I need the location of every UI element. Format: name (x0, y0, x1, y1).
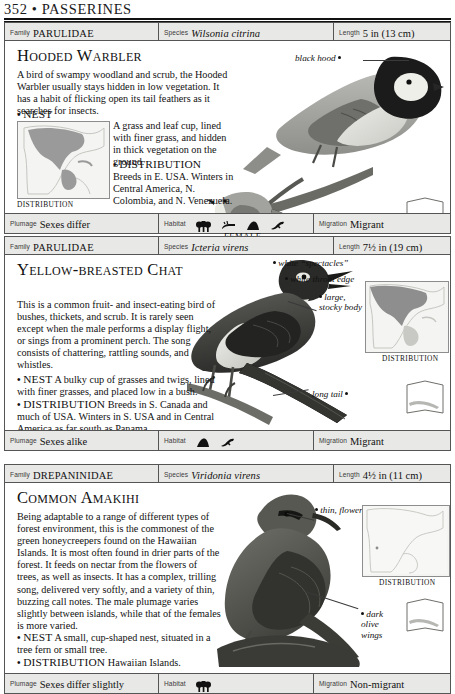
habitat-label: Habitat (164, 220, 186, 227)
species-value: Icteria virens (191, 242, 248, 253)
entry-footer-bar: PlumageSexes differ slightly Habitat Mig… (5, 673, 450, 693)
callout-dark-olive-wings: dark olive wings (361, 609, 401, 640)
length-label: Length (339, 243, 360, 250)
entry-header-bar: FamilyPARULIDAE SpeciesWilsonia citrina … (5, 23, 450, 41)
plumage-label: Plumage (10, 437, 37, 444)
book-icon (403, 595, 447, 635)
nest-label: NEST (23, 108, 52, 120)
trees-icon (196, 681, 211, 692)
page-header: 352 • PASSERINES (4, 0, 451, 20)
distribution-label: DISTRIBUTION (23, 656, 105, 668)
callout-large-stocky-body: large, stocky body (319, 292, 365, 313)
species-value: Viridonia virens (191, 470, 260, 481)
distribution-map (362, 505, 450, 577)
callout-white-throat-edge: white throat edge (285, 274, 354, 284)
callout-text: white “spectacles” (278, 258, 348, 268)
flying-bird-icon (271, 221, 285, 231)
length-value: 5 in (13 cm) (363, 28, 415, 39)
entry-footer-bar: PlumageSexes alike Habitat MigrationMigr… (5, 430, 450, 450)
callout-dot (285, 277, 288, 280)
nest-line: • NEST A bulky cup of grasses and twigs,… (17, 373, 231, 398)
species-cell: SpeciesViridonia virens (159, 465, 334, 482)
plumage-cell: PlumageSexes differ (5, 214, 159, 233)
migration-cell: MigrationMigrant (314, 431, 450, 450)
length-cell: Length5 in (13 cm) (334, 23, 450, 40)
species-title: Hooded Warbler (17, 47, 232, 64)
species-label: Species (164, 29, 188, 36)
migration-value: Migrant (350, 219, 384, 230)
distribution-caption: DISTRIBUTION (17, 200, 74, 209)
field-guide-page: 352 • PASSERINES FamilyPARULIDAE Species… (0, 0, 455, 694)
plumage-value: Sexes alike (40, 436, 88, 447)
map-graphic (18, 122, 107, 196)
species-entry-yellow-breasted-chat: FamilyPARULIDAE SpeciesIcteria virens Le… (4, 236, 451, 451)
entry-header-bar: FamilyDREPANINIDAE SpeciesViridonia vire… (5, 465, 450, 483)
callout-dot (361, 612, 364, 615)
entry-header-bar: FamilyPARULIDAE SpeciesIcteria virens Le… (5, 237, 450, 255)
nest-line: • NEST A small, cup-shaped nest, situate… (17, 631, 217, 656)
length-cell: Length4½ in (11 cm) (334, 465, 450, 482)
species-title: Yellow-breasted Chat (17, 261, 197, 279)
callout-white-spectacles: white “spectacles” (273, 258, 348, 268)
distribution-map (365, 281, 449, 353)
plumage-cell: PlumageSexes alike (5, 431, 159, 450)
callout-dot (319, 295, 322, 298)
habitat-label: Habitat (164, 437, 186, 444)
nest-label: NEST (23, 631, 52, 643)
family-cell: FamilyPARULIDAE (5, 23, 159, 40)
callout-text: long tail (312, 389, 343, 399)
distribution-map (17, 121, 110, 199)
distribution-caption: DISTRIBUTION (382, 354, 439, 363)
page-folio: 352 • PASSERINES (4, 0, 451, 19)
migration-cell: MigrationMigrant (314, 214, 450, 233)
callout-leader (363, 60, 409, 61)
length-value: 7½ in (19 cm) (363, 242, 423, 253)
callout-black-hood: black hood (295, 53, 341, 63)
habitat-cell: Habitat (159, 431, 314, 450)
habitat-cell: Habitat (159, 674, 314, 693)
callout-text: large, stocky body (319, 292, 362, 312)
plumage-value: Sexes differ (40, 219, 90, 230)
habitat-label: Habitat (164, 680, 186, 687)
habitat-icon-group (196, 433, 242, 451)
species-entry-hooded-warbler: FamilyPARULIDAE SpeciesWilsonia citrina … (4, 22, 451, 234)
callout-text: black hood (295, 53, 336, 63)
entry-footer-bar: PlumageSexes differ Habitat (5, 213, 450, 233)
callout-long-tail: long tail (312, 389, 348, 399)
distribution-text: Hawaiian Islands. (108, 657, 181, 668)
species-cell: SpeciesWilsonia citrina (159, 23, 334, 40)
family-value: PARULIDAE (33, 242, 94, 253)
nest-label: NEST (23, 373, 52, 385)
species-cell: SpeciesIcteria virens (159, 237, 334, 254)
book-icon (403, 377, 447, 417)
callout-text: dark olive wings (361, 609, 383, 640)
migration-label: Migration (319, 437, 347, 444)
map-graphic (363, 506, 447, 574)
migration-value: Non-migrant (350, 679, 404, 690)
plumage-value: Sexes differ slightly (40, 679, 124, 690)
habitat-icon-group (196, 216, 292, 234)
flying-bird-icon (221, 438, 235, 448)
callout-text: white throat edge (290, 274, 354, 284)
plumage-label: Plumage (10, 220, 37, 227)
migration-label: Migration (319, 220, 347, 227)
callout-dot (273, 261, 276, 264)
hill-icon (196, 438, 210, 448)
family-label: Family (10, 29, 30, 36)
migration-label: Migration (319, 680, 347, 687)
plumage-label: Plumage (10, 680, 37, 687)
species-description: This is a common fruit- and insect-eatin… (17, 299, 217, 372)
length-label: Length (339, 471, 360, 478)
distribution-text: Breeds in E. USA. Winters in Central Ame… (113, 171, 235, 207)
distribution-caption: DISTRIBUTION (379, 578, 436, 587)
distribution-label: DISTRIBUTION (119, 158, 201, 170)
callout-dot (315, 508, 318, 511)
species-description: Being adaptable to a range of different … (17, 511, 221, 632)
family-value: DREPANINIDAE (33, 470, 113, 481)
distribution-line: • DISTRIBUTION Hawaiian Islands. (17, 656, 227, 669)
callout-dot (345, 392, 348, 395)
family-label: Family (10, 471, 30, 478)
family-value: PARULIDAE (33, 28, 94, 39)
migration-value: Migrant (350, 436, 384, 447)
species-label: Species (164, 471, 188, 478)
